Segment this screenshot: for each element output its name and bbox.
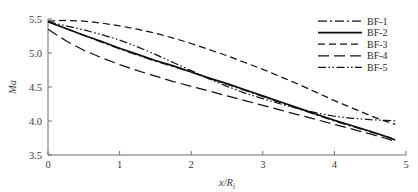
legend-label-bf-2: BF-2 bbox=[367, 27, 388, 38]
y-tick-label: 4.5 bbox=[29, 82, 42, 93]
x-axis-title: x/Ri bbox=[218, 177, 235, 191]
axes: 0123453.54.04.55.05.5Max/Ri bbox=[7, 14, 409, 191]
curve-bf-1 bbox=[48, 22, 392, 138]
x-tick-label: 2 bbox=[189, 159, 194, 170]
data-curves bbox=[48, 20, 395, 141]
curve-bf-2 bbox=[48, 22, 395, 140]
curve-bf-3 bbox=[48, 20, 395, 124]
x-tick-label: 5 bbox=[403, 159, 408, 170]
y-axis-title: Ma bbox=[7, 80, 18, 95]
chart-legend: BF-1BF-2BF-3BF-4BF-5 bbox=[318, 16, 388, 73]
x-tick-label: 1 bbox=[117, 159, 122, 170]
chart-figure: 0123453.54.04.55.05.5Max/Ri BF-1BF-2BF-3… bbox=[0, 0, 418, 192]
line-chart: 0123453.54.04.55.05.5Max/Ri BF-1BF-2BF-3… bbox=[0, 0, 418, 192]
legend-label-bf-1: BF-1 bbox=[367, 16, 388, 27]
x-tick-label: 0 bbox=[45, 159, 50, 170]
curve-bf-4 bbox=[48, 29, 395, 141]
y-tick-label: 3.5 bbox=[29, 150, 42, 161]
x-tick-label: 4 bbox=[332, 159, 338, 170]
legend-label-bf-5: BF-5 bbox=[367, 62, 388, 73]
y-tick-label: 5.0 bbox=[29, 48, 42, 59]
curve-bf-5 bbox=[48, 22, 395, 121]
legend-label-bf-3: BF-3 bbox=[367, 39, 388, 50]
y-tick-label: 5.5 bbox=[29, 14, 42, 25]
x-tick-label: 3 bbox=[260, 159, 265, 170]
y-tick-label: 4.0 bbox=[29, 116, 42, 127]
legend-label-bf-4: BF-4 bbox=[367, 50, 388, 61]
